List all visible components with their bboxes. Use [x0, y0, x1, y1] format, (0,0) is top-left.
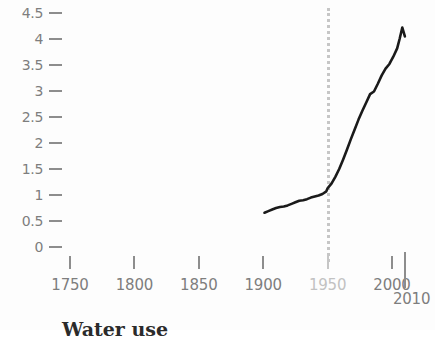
end-of-axis-rule	[404, 252, 406, 288]
data-line-series-1	[264, 28, 404, 213]
end-marker-label: 2010	[393, 290, 430, 308]
chart-caption: Water use	[62, 318, 168, 340]
